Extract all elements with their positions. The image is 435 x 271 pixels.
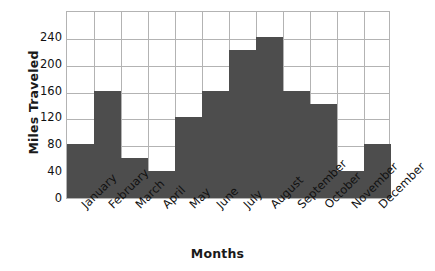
- bar: [256, 37, 283, 198]
- y-tick-label: 0: [18, 193, 62, 205]
- y-tick-label: 240: [18, 32, 62, 44]
- bar: [202, 91, 229, 198]
- bar: [229, 50, 256, 198]
- y-axis-tick-labels: 0 40 80 120 160 200 240: [14, 11, 62, 199]
- y-tick-label: 160: [18, 86, 62, 98]
- y-tick-label: 80: [18, 139, 62, 151]
- bar-chart: Miles Traveled 0 40 80 120 160 200 240 J…: [0, 0, 435, 271]
- y-tick-label: 40: [18, 166, 62, 178]
- y-tick-label: 120: [18, 112, 62, 124]
- y-tick-label: 200: [18, 59, 62, 71]
- x-axis-title: Months: [0, 246, 435, 261]
